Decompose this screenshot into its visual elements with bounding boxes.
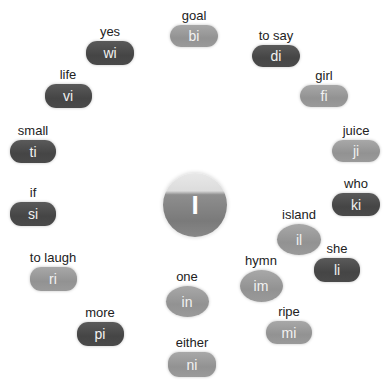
syllable-pill-fi[interactable]: fi (300, 85, 348, 107)
syllable-pill-di[interactable]: di (252, 45, 300, 67)
syllable-pill-ki[interactable]: ki (332, 193, 380, 216)
syllable-pill-bi[interactable]: bi (170, 25, 218, 47)
syllable-oval-il[interactable]: il (277, 224, 321, 255)
node-ripe: ripe mi (266, 305, 312, 344)
node-juice: juice ji (332, 124, 380, 162)
syllable-pill-si[interactable]: si (10, 202, 56, 226)
word-label: to laugh (30, 251, 76, 265)
syllable-pill-ni[interactable]: ni (168, 352, 216, 377)
syllable-pill-li[interactable]: li (314, 258, 360, 282)
center-letter-circle[interactable]: I (163, 173, 227, 237)
node-who: who ki (332, 177, 380, 216)
word-label: small (18, 124, 48, 138)
word-label: either (176, 336, 209, 350)
node-if: if si (10, 186, 56, 226)
node-girl: girl fi (300, 69, 348, 107)
node-island: island il (276, 208, 322, 255)
word-label: who (344, 177, 368, 191)
word-label: hymn (245, 254, 277, 268)
word-label: ripe (278, 305, 300, 319)
node-to-laugh: to laugh ri (22, 251, 84, 291)
word-label: girl (315, 69, 332, 83)
syllable-oval-in[interactable]: in (166, 286, 209, 317)
syllable-pill-pi[interactable]: pi (77, 322, 124, 346)
syllable-pill-ti[interactable]: ti (10, 140, 56, 163)
syllable-pill-ri[interactable]: ri (30, 267, 77, 291)
word-label: island (282, 208, 316, 222)
word-label: yes (100, 25, 120, 39)
syllable-pill-vi[interactable]: vi (45, 84, 92, 108)
syllable-diagram: goal bi to say di girl fi juice ji who k… (0, 0, 392, 386)
word-label: if (30, 186, 37, 200)
word-label: juice (343, 124, 370, 138)
syllable-pill-mi[interactable]: mi (266, 321, 312, 344)
word-label: more (85, 306, 115, 320)
node-small: small ti (10, 124, 56, 163)
syllable-oval-im[interactable]: im (240, 270, 283, 302)
word-label: goal (182, 9, 207, 23)
word-label: life (60, 68, 77, 82)
word-label: to say (259, 29, 294, 43)
node-yes: yes wi (86, 25, 134, 65)
node-to-say: to say di (252, 29, 300, 67)
syllable-pill-wi[interactable]: wi (86, 41, 134, 65)
syllable-pill-ji[interactable]: ji (332, 140, 380, 162)
word-label: one (176, 270, 198, 284)
word-label: she (327, 242, 348, 256)
node-life: life vi (44, 68, 92, 108)
node-goal: goal bi (170, 9, 218, 47)
node-one: one in (164, 270, 210, 317)
node-more: more pi (76, 306, 124, 346)
node-either: either ni (168, 336, 216, 377)
node-hymn: hymn im (238, 254, 284, 302)
